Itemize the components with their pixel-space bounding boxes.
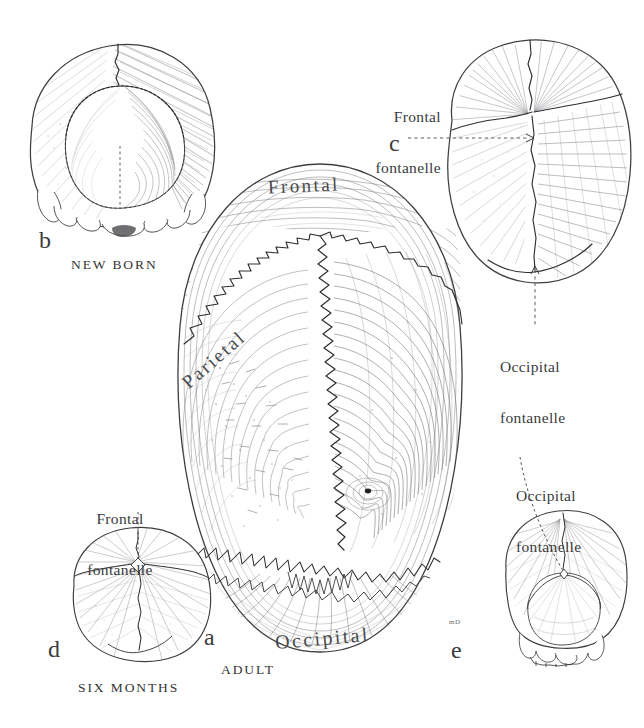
artist-monogram: mD (449, 618, 461, 626)
e-occipital-fontanelle-line1: Occipital (516, 488, 636, 505)
figure-a-caption: ADULT (221, 663, 275, 678)
frontal-fontanelle-line1: Frontal (331, 109, 441, 126)
figure-d-frontal-fontanelle-label: Frontal fontanelle (60, 478, 180, 612)
figure-b-caption: NEW BORN (71, 258, 158, 273)
figure-c-letter: c (389, 131, 400, 157)
figure-e-letter: e (451, 638, 462, 664)
anatomy-plate: b NEW BORN (0, 0, 644, 728)
occipital-fontanelle-line1: Occipital (500, 359, 618, 376)
occipital-fontanelle-line2: fontanelle (500, 410, 618, 427)
adult-frontal-label: Frontal (268, 174, 341, 198)
figure-c-occipital-fontanelle-label: Occipital fontanelle (500, 326, 618, 460)
figure-d-caption: SIX MONTHS (78, 681, 179, 696)
e-occipital-fontanelle-line2: fontanelle (516, 539, 636, 556)
figure-d-letter: d (48, 637, 60, 663)
figure-b-letter: b (39, 228, 51, 254)
figure-e-occipital-fontanelle-label: Occipital fontanelle (516, 455, 636, 589)
d-frontal-fontanelle-line1: Frontal (60, 511, 180, 528)
d-frontal-fontanelle-line2: fontanelle (60, 562, 180, 579)
